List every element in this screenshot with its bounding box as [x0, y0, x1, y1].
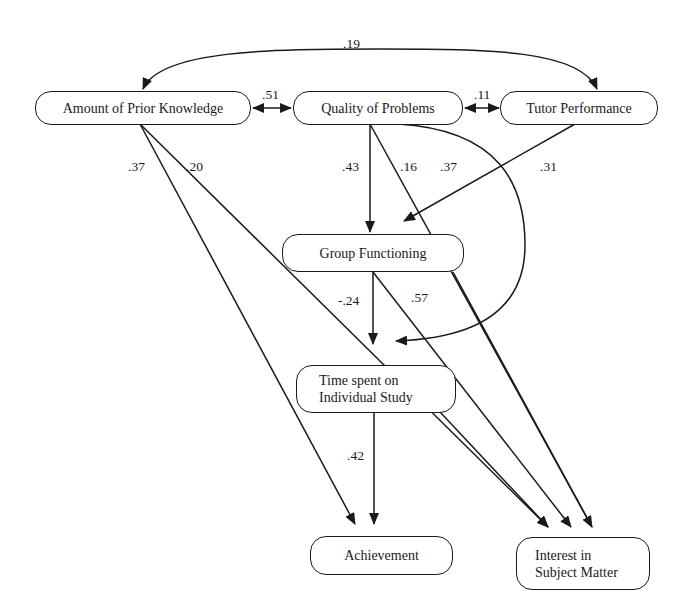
coef-group-interest: .57 — [411, 291, 428, 305]
node-tutor-performance-label: Tutor Performance — [526, 100, 632, 117]
node-tutor-performance: Tutor Performance — [500, 91, 658, 125]
node-prior-knowledge-label: Amount of Prior Knowledge — [63, 100, 224, 117]
coef-quality-tutor: .11 — [474, 88, 490, 102]
coef-tutor-group: .31 — [540, 160, 557, 174]
edge-prior-tutor-correlation — [143, 49, 597, 89]
coef-quality-time: .37 — [440, 160, 457, 174]
edge-prior-achievement — [140, 124, 355, 524]
coef-quality-interest: .16 — [400, 160, 417, 174]
coef-prior-quality: .51 — [262, 88, 279, 102]
node-quality-problems: Quality of Problems — [293, 91, 463, 125]
node-time-study-line2: Individual Study — [319, 389, 413, 406]
node-achievement: Achievement — [310, 536, 453, 575]
coef-prior-tutor: .19 — [343, 37, 360, 51]
edge-prior-interest — [140, 124, 548, 527]
edge-time-interest — [440, 412, 548, 527]
node-prior-knowledge: Amount of Prior Knowledge — [35, 91, 251, 125]
edge-quality-time-curve — [396, 124, 525, 341]
coef-quality-group: .43 — [342, 160, 359, 174]
node-time-individual-study: Time spent on Individual Study — [296, 365, 456, 413]
node-interest-line2: Subject Matter — [535, 564, 618, 581]
node-interest-line1: Interest in — [535, 547, 591, 564]
node-quality-problems-label: Quality of Problems — [321, 100, 435, 117]
node-group-functioning-label: Group Functioning — [320, 245, 427, 262]
node-group-functioning: Group Functioning — [282, 234, 464, 272]
coef-prior-interest: .20 — [186, 160, 203, 174]
node-time-study-line1: Time spent on — [319, 372, 399, 389]
coef-prior-achievement: .37 — [128, 160, 145, 174]
node-interest-subject-matter: Interest in Subject Matter — [516, 537, 650, 590]
node-achievement-label: Achievement — [344, 547, 419, 564]
coef-group-time: -.24 — [338, 294, 359, 308]
coef-time-achievement: .42 — [347, 449, 364, 463]
edge-group-right-line — [453, 272, 592, 527]
